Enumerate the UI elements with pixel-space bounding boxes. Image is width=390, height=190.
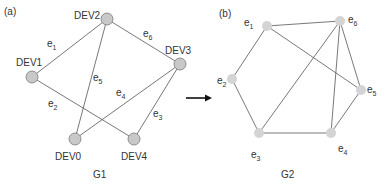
edge-e6-e4 [331, 21, 340, 133]
node-dev2 [101, 13, 113, 25]
node-label-dev3: DEV3 [165, 45, 192, 56]
edge-e1-e5 [267, 26, 361, 90]
edge-e6-e3 [259, 21, 340, 133]
edge-e3 [134, 64, 180, 139]
node-e1 [262, 21, 272, 31]
edge-label-e5: e5 [93, 72, 103, 85]
arrow-right-icon [205, 95, 212, 102]
panel-b-tag: (b) [219, 8, 231, 19]
edge-label-e1: e1 [47, 38, 57, 51]
node-label-e3: e3 [251, 149, 261, 162]
node-e4 [326, 128, 336, 138]
edge-label-e2: e2 [48, 98, 58, 111]
panel-a-graph-g1: (a) e1 e2 e3 e4 e5 e6 DEV2 DEV3 DEV1 DEV… [4, 6, 192, 180]
node-dev0 [69, 133, 81, 145]
node-label-e2: e2 [217, 75, 227, 88]
node-e6 [335, 16, 345, 26]
caption-g2: G2 [281, 169, 295, 180]
node-label-dev4: DEV4 [121, 151, 148, 162]
line-graph-transformation-diagram: (a) e1 e2 e3 e4 e5 e6 DEV2 DEV3 DEV1 DEV… [0, 0, 390, 190]
caption-g1: G1 [93, 169, 107, 180]
node-label-e4: e4 [338, 143, 348, 156]
edge-e1-e6 [267, 21, 340, 26]
node-label-e6: e6 [348, 14, 358, 27]
node-dev3 [174, 58, 186, 70]
edge-e2-e3 [232, 79, 259, 133]
node-e2 [227, 74, 237, 84]
panel-a-tag: (a) [4, 6, 16, 17]
edge-label-e6: e6 [143, 28, 153, 41]
node-dev1 [26, 71, 38, 83]
edge-e1-e2 [232, 26, 267, 79]
node-label-dev2: DEV2 [74, 10, 101, 21]
edge-e6-e5 [340, 21, 361, 90]
edge-e4 [75, 64, 180, 139]
panel-b-graph-g2: (b) e1 e6 e2 e5 e3 e4 G2 [217, 8, 377, 180]
node-label-dev0: DEV0 [55, 151, 82, 162]
node-e5 [356, 85, 366, 95]
node-dev4 [128, 133, 140, 145]
node-e3 [254, 128, 264, 138]
edge-e6 [107, 19, 180, 64]
edge-label-e4: e4 [116, 87, 126, 100]
node-label-e1: e1 [244, 17, 254, 30]
edge-label-e3: e3 [153, 108, 163, 121]
edge-e4-e5 [331, 90, 361, 133]
edge-e1 [32, 19, 107, 77]
transform-arrow [186, 95, 212, 102]
node-label-e5: e5 [367, 84, 377, 97]
node-label-dev1: DEV1 [16, 57, 43, 68]
